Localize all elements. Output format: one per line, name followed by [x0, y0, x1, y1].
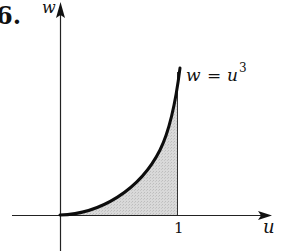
- figure-number: 6.: [0, 1, 21, 30]
- curve-label-exponent: 3: [239, 61, 247, 75]
- curve-label-base: u: [227, 65, 238, 85]
- y-axis-label: w: [42, 0, 56, 17]
- shaded-area: [60, 70, 178, 215]
- x-axis-label: u: [263, 216, 275, 237]
- curve-label: w = u 3: [186, 61, 247, 85]
- x-tick-label-1: 1: [174, 219, 184, 237]
- curve-label-lhs: w: [186, 65, 201, 85]
- curve-label-equals: =: [207, 65, 221, 85]
- figure-canvas: 1 u w 6. w = u 3: [0, 0, 282, 251]
